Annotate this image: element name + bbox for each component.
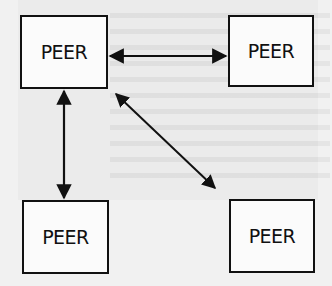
peer-node-top-right: PEER xyxy=(228,15,314,87)
peer-node-top-left: PEER xyxy=(20,15,108,89)
peer-node-bottom-left: PEER xyxy=(22,200,109,274)
peer-label: PEER xyxy=(249,225,296,247)
peer-node-bottom-right: PEER xyxy=(229,199,315,273)
peer-label: PEER xyxy=(41,41,88,63)
peer-label: PEER xyxy=(42,226,89,248)
peer-label: PEER xyxy=(248,40,295,62)
edge-top-left-bottom-right xyxy=(116,94,215,188)
